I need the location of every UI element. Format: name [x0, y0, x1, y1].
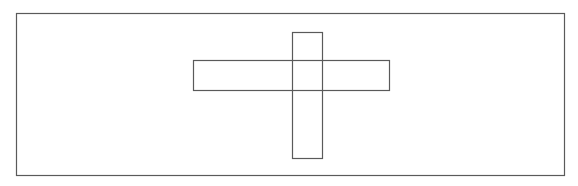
diagram-canvas	[0, 0, 578, 186]
outer-frame	[17, 14, 565, 176]
cross-diagram	[0, 0, 578, 186]
horizontal-bar	[194, 61, 390, 91]
vertical-bar	[293, 33, 323, 159]
